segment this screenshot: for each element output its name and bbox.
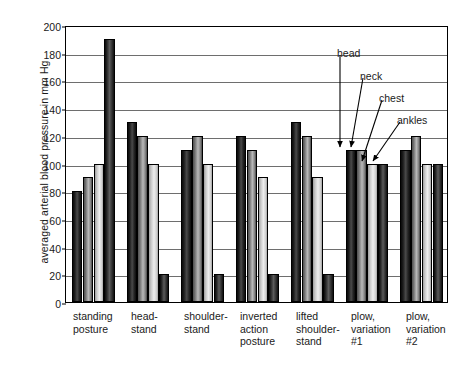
y-axis-tick-label: 140 (43, 104, 61, 116)
x-axis-label-line: lifted (296, 310, 340, 323)
y-axis-tickmark (62, 137, 66, 138)
annotation-label-neck: neck (360, 70, 382, 82)
bar-group (181, 27, 224, 302)
y-axis-tickmark (62, 220, 66, 221)
bar (356, 150, 366, 302)
bar (378, 164, 388, 303)
x-axis-category-label: liftedshoulder-stand (296, 310, 340, 348)
annotation-label-chest: chest (379, 92, 404, 104)
bar (159, 274, 169, 302)
x-axis-label-line: plow, (351, 310, 391, 323)
bar (346, 150, 356, 302)
x-axis-label-line: posture (73, 323, 113, 336)
y-axis-tick-label: 60 (49, 215, 61, 227)
y-axis-tick-label: 180 (43, 49, 61, 61)
y-axis-tick-label: 160 (43, 76, 61, 88)
bar (214, 274, 224, 302)
y-axis-tickmark (62, 304, 66, 305)
x-axis-category-label: plow,variation#2 (406, 310, 446, 348)
bar-group (127, 27, 170, 302)
x-axis-label-line: posture (240, 335, 277, 348)
bar (258, 177, 268, 302)
bar (367, 164, 377, 303)
y-axis-tick-label: 200 (43, 21, 61, 33)
bar (312, 177, 322, 302)
y-axis-tick-label: 0 (55, 298, 61, 310)
bar-group (236, 27, 279, 302)
x-axis-label-line: head- (131, 310, 158, 323)
x-axis-label-line: #1 (351, 335, 391, 348)
y-axis-tick-label: 80 (49, 187, 61, 199)
x-axis-label-line: standing (73, 310, 113, 323)
bar (192, 136, 202, 302)
y-axis-tickmark (62, 193, 66, 194)
bar (203, 164, 213, 303)
x-axis-label-line: variation (351, 323, 391, 336)
bar (268, 274, 278, 302)
bar (323, 274, 333, 302)
bar (104, 39, 114, 302)
bar (181, 150, 191, 302)
bar (148, 164, 158, 303)
x-axis-label-line: #2 (406, 335, 446, 348)
y-axis-tickmark (62, 110, 66, 111)
bar (411, 136, 421, 302)
x-axis-category-label: standingposture (73, 310, 113, 335)
bar (94, 164, 104, 303)
y-axis-tickmark (62, 165, 66, 166)
bar (247, 150, 257, 302)
bar (236, 136, 246, 302)
bar-chart-figure: averaged arterial blood pressure in mm H… (0, 0, 467, 375)
x-axis-category-label: shoulder-stand (184, 310, 228, 335)
y-axis-tick-label: 120 (43, 132, 61, 144)
bar (72, 191, 82, 302)
bar (302, 136, 312, 302)
x-axis-category-label: plow,variation#1 (351, 310, 391, 348)
x-axis-label-line: shoulder- (184, 310, 228, 323)
y-axis-tick-label: 40 (49, 243, 61, 255)
y-axis-tickmark (62, 82, 66, 83)
y-axis-tickmark (62, 27, 66, 28)
bar (422, 164, 432, 303)
bar-group (72, 27, 115, 302)
x-axis-label-line: shoulder- (296, 323, 340, 336)
bar (433, 164, 443, 303)
plot-area: 020406080100120140160180200 (65, 26, 448, 303)
x-axis-label-line: stand (131, 323, 158, 336)
y-axis-tickmark (62, 54, 66, 55)
y-axis-tickmark (62, 276, 66, 277)
x-axis-label-line: stand (296, 335, 340, 348)
y-axis-tick-label: 20 (49, 270, 61, 282)
bar-group (346, 27, 389, 302)
bar (400, 150, 410, 302)
x-axis-category-label: head-stand (131, 310, 158, 335)
bar (127, 122, 137, 302)
y-axis-tick-label: 100 (43, 160, 61, 172)
bar-group (400, 27, 443, 302)
bar (83, 177, 93, 302)
x-axis-label-line: stand (184, 323, 228, 336)
plot-inner: 020406080100120140160180200 (66, 27, 447, 302)
x-axis-label-line: inverted (240, 310, 277, 323)
bar-group (291, 27, 334, 302)
x-axis-label-line: action (240, 323, 277, 336)
annotation-label-ankles: ankles (397, 114, 427, 126)
annotation-label-head: head (337, 47, 360, 59)
bar (137, 136, 147, 302)
y-axis-tickmark (62, 248, 66, 249)
bar (291, 122, 301, 302)
x-axis-label-line: variation (406, 323, 446, 336)
x-axis-category-label: invertedactionposture (240, 310, 277, 348)
x-axis-label-line: plow, (406, 310, 446, 323)
